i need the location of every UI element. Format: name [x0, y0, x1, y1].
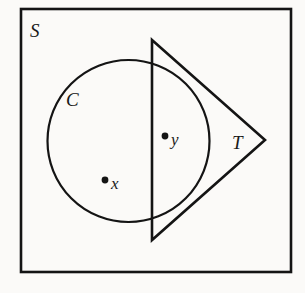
- point-y-dot: [162, 133, 169, 140]
- label-circle-c: C: [66, 89, 79, 110]
- figure-canvas: S C T x y: [0, 0, 305, 293]
- circle-c-shape: [48, 60, 210, 222]
- label-point-x: x: [110, 174, 119, 193]
- set-diagram-svg: S C T x y: [0, 0, 305, 293]
- label-point-y: y: [169, 130, 179, 149]
- point-x-dot: [102, 177, 109, 184]
- label-universal-set-s: S: [30, 20, 40, 41]
- universal-set-square: [21, 9, 291, 272]
- label-triangle-t: T: [232, 132, 244, 153]
